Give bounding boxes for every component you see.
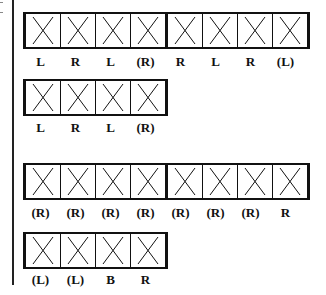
measure-row-3 — [23, 163, 310, 200]
hand-labels: (R)(R)(R)(R)(R)(R)(R)R — [23, 205, 303, 221]
box-strip — [23, 232, 168, 269]
note-box — [130, 14, 165, 47]
x-mark-icon — [61, 165, 95, 198]
note-box — [60, 14, 95, 47]
x-mark-icon — [238, 165, 272, 198]
note-box — [130, 165, 165, 198]
note-box — [272, 14, 307, 47]
note-box — [60, 81, 95, 114]
x-mark-icon — [273, 165, 307, 198]
x-mark-icon — [26, 165, 60, 198]
hand-labels: LRL(R) — [23, 120, 163, 136]
hand-label: (R) — [163, 205, 198, 221]
note-box — [23, 165, 60, 198]
note-box — [23, 234, 60, 267]
note-box — [60, 234, 95, 267]
hand-label: (R) — [233, 205, 268, 221]
note-box — [23, 14, 60, 47]
x-mark-icon — [61, 14, 95, 47]
hand-label: R — [163, 54, 198, 70]
hand-label: B — [93, 272, 128, 288]
strip-end-bar — [307, 165, 310, 198]
x-mark-icon — [131, 14, 165, 47]
x-mark-icon — [61, 234, 95, 267]
x-mark-icon — [96, 234, 130, 267]
strip-end-bar — [165, 234, 168, 267]
x-mark-icon — [26, 234, 60, 267]
note-box — [130, 234, 165, 267]
hand-label: L — [93, 54, 128, 70]
x-mark-icon — [26, 14, 60, 47]
hand-label: (L) — [268, 54, 303, 70]
x-mark-icon — [168, 14, 202, 47]
x-mark-icon — [203, 165, 237, 198]
measure-row-1 — [23, 12, 310, 49]
note-box — [165, 14, 202, 47]
hand-label: (L) — [58, 272, 93, 288]
margin-mark — [0, 12, 3, 13]
hand-label: L — [93, 120, 128, 136]
box-strip — [23, 79, 168, 116]
note-box — [95, 81, 130, 114]
x-mark-icon — [131, 234, 165, 267]
margin-mark — [0, 2, 3, 3]
hand-label: (R) — [128, 205, 163, 221]
x-mark-icon — [131, 165, 165, 198]
note-box — [95, 14, 130, 47]
note-box — [237, 165, 272, 198]
measure-row-4 — [23, 232, 168, 269]
note-box — [130, 81, 165, 114]
hand-label: (R) — [58, 205, 93, 221]
note-box — [95, 234, 130, 267]
box-strip — [23, 163, 310, 200]
hand-label: (R) — [93, 205, 128, 221]
x-mark-icon — [168, 165, 202, 198]
box-strip — [23, 12, 310, 49]
strip-end-bar — [307, 14, 310, 47]
note-box — [202, 14, 237, 47]
hand-label: (R) — [198, 205, 233, 221]
measure-row-2 — [23, 79, 168, 116]
hand-label: L — [23, 120, 58, 136]
hand-label: R — [58, 54, 93, 70]
hand-label: (R) — [23, 205, 58, 221]
margin-rule — [12, 0, 14, 285]
x-mark-icon — [96, 165, 130, 198]
note-box — [95, 165, 130, 198]
x-mark-icon — [131, 81, 165, 114]
x-mark-icon — [238, 14, 272, 47]
x-mark-icon — [203, 14, 237, 47]
x-mark-icon — [61, 81, 95, 114]
hand-label: R — [128, 272, 163, 288]
x-mark-icon — [26, 81, 60, 114]
note-box — [272, 165, 307, 198]
hand-label: (R) — [128, 54, 163, 70]
hand-label: R — [233, 54, 268, 70]
note-box — [237, 14, 272, 47]
x-mark-icon — [96, 14, 130, 47]
hand-label: (R) — [128, 120, 163, 136]
hand-labels: LRL(R)RLR(L) — [23, 54, 303, 70]
hand-label: (L) — [23, 272, 58, 288]
strip-end-bar — [165, 81, 168, 114]
hand-label: R — [268, 205, 303, 221]
hand-label: R — [58, 120, 93, 136]
note-box — [60, 165, 95, 198]
note-box — [23, 81, 60, 114]
hand-label: L — [198, 54, 233, 70]
note-box — [165, 165, 202, 198]
note-box — [202, 165, 237, 198]
hand-labels: (L)(L)BR — [23, 272, 163, 288]
x-mark-icon — [96, 81, 130, 114]
x-mark-icon — [273, 14, 307, 47]
hand-label: L — [23, 54, 58, 70]
